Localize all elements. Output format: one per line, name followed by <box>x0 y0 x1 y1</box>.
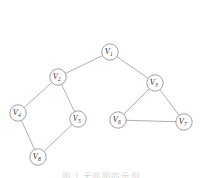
graph-edge-v4-v8 <box>21 120 34 149</box>
graph-figure: V1V2V3V4V5V6V7V8 图 1 无向图的示例 <box>0 0 202 178</box>
graph-node-v7: V7 <box>176 114 192 130</box>
node-label-subscript-v7: 7 <box>184 121 187 127</box>
graph-node-v8: V8 <box>30 149 46 165</box>
figure-caption-text: 图 1 无向图的示例 <box>62 170 140 178</box>
node-label-subscript-v6: 6 <box>118 119 121 125</box>
figure-caption: 图 1 无向图的示例 <box>0 169 202 178</box>
graph-node-v3: V3 <box>147 75 163 91</box>
node-layer: V1V2V3V4V5V6V7V8 <box>10 44 192 165</box>
graph-node-v6: V6 <box>110 112 126 128</box>
graph-edge-v2-v4 <box>24 82 52 107</box>
graph-edge-v3-v6 <box>124 89 149 114</box>
node-label-subscript-v2: 2 <box>58 76 61 82</box>
graph-edge-v2-v5 <box>62 84 75 111</box>
node-label-subscript-v5: 5 <box>78 118 81 124</box>
node-label-subscript-v4: 4 <box>18 112 21 118</box>
graph-edge-v3-v7 <box>160 90 179 116</box>
edge-layer <box>21 56 179 152</box>
graph-node-v4: V4 <box>10 105 26 121</box>
graph-node-v5: V5 <box>70 111 86 127</box>
node-label-subscript-v3: 3 <box>154 82 158 88</box>
graph-edge-v1-v2 <box>65 56 102 74</box>
node-label-subscript-v1: 1 <box>110 51 113 57</box>
graph-edge-v6-v7 <box>126 120 176 122</box>
graph-canvas: V1V2V3V4V5V6V7V8 <box>0 0 202 178</box>
graph-node-v1: V1 <box>102 44 118 60</box>
graph-edge-v5-v8 <box>44 125 72 152</box>
node-label-subscript-v8: 8 <box>38 156 41 162</box>
graph-node-v2: V2 <box>50 69 66 85</box>
graph-edge-v1-v3 <box>117 57 149 79</box>
